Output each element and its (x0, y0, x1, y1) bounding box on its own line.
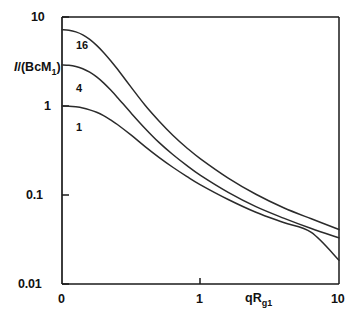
curve-label-1: 1 (76, 121, 82, 133)
y-axis-title: I/(BcM1) (14, 60, 61, 77)
axis-ticks (62, 17, 200, 284)
plot-frame (62, 17, 339, 284)
x-axis-title-sub: g1 (262, 298, 273, 308)
curve-label-4: 4 (76, 82, 82, 94)
y-axis-title-rest: /(BcM (17, 60, 51, 74)
curve-label-16: 16 (76, 39, 88, 51)
chart-figure: 10 1 0.1 0.01 0 1 10 I/(BcM1) qRg1 16 4 … (0, 0, 364, 324)
x-tick-10: 10 (331, 292, 345, 306)
x-tick-1: 1 (196, 292, 203, 306)
y-tick-1: 1 (44, 99, 51, 113)
curve-4 (62, 65, 339, 238)
x-axis-title: qRg1 (245, 291, 272, 308)
x-tick-0: 0 (58, 292, 65, 306)
data-curves (62, 30, 339, 261)
y-axis-title-close: ) (57, 60, 61, 74)
y-tick-0.1: 0.1 (26, 188, 43, 202)
curve-1 (62, 106, 339, 260)
y-tick-0.01: 0.01 (18, 277, 42, 291)
x-axis-title-q: qR (245, 291, 262, 305)
plot-canvas (0, 0, 364, 324)
y-tick-10: 10 (31, 10, 45, 24)
curve-16 (62, 30, 339, 230)
